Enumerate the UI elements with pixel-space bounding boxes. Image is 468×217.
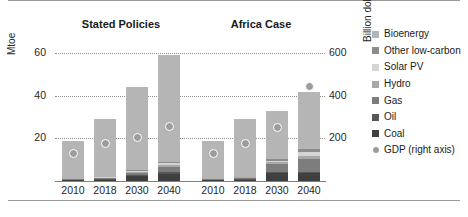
gdp-marker: [241, 139, 250, 148]
legend-label: Bioenergy: [384, 29, 429, 39]
gdp-marker: [273, 123, 282, 132]
bar-africa-case-2018: [234, 119, 256, 181]
gdp-marker: [101, 139, 110, 148]
x-label-2040: 2040: [149, 184, 189, 196]
bar-stack: [94, 36, 116, 181]
bar-stated-policies-2018: [94, 119, 116, 181]
legend-label: Coal: [384, 129, 405, 139]
gdp-marker: [305, 82, 314, 91]
gdp-marker: [133, 133, 142, 142]
bar-africa-case-2010: [202, 141, 224, 181]
legend-swatch-icon: [372, 114, 379, 121]
legend-label: GDP (right axis): [384, 145, 455, 155]
gdp-marker: [209, 149, 218, 158]
bar-stack: [234, 36, 256, 181]
bar-segment-gas: [298, 159, 320, 172]
y-tick-right-400: 400: [329, 89, 355, 101]
legend-label: Gas: [384, 96, 402, 106]
legend-label: Hydro: [384, 79, 411, 89]
bar-africa-case-2040: [298, 92, 320, 181]
bar-segment-coal: [234, 180, 256, 181]
bar-stated-policies-2040: [158, 55, 180, 181]
bar-stack: [266, 36, 288, 181]
gdp-marker: [69, 149, 78, 158]
bar-segment-bioenergy: [62, 141, 84, 179]
legend-item-coal[interactable]: Coal: [372, 126, 467, 143]
bar-segment-coal: [298, 173, 320, 181]
y-axis-left-label: Mtoe: [6, 33, 17, 55]
bar-segment-gas: [266, 164, 288, 173]
bar-segment-bioenergy: [202, 141, 224, 179]
legend-item-hydro[interactable]: Hydro: [372, 76, 467, 93]
bar-stack: [298, 36, 320, 181]
legend-item-solar-pv[interactable]: Solar PV: [372, 59, 467, 76]
y-tick-left-60: 60: [24, 46, 46, 58]
bar-segment-bioenergy: [266, 111, 288, 160]
bar-segment-coal: [158, 174, 180, 181]
legend-swatch-icon: [372, 81, 379, 88]
x-label-2040: 2040: [289, 184, 329, 196]
bar-stack: [158, 36, 180, 181]
legend-swatch-icon: [372, 97, 379, 104]
legend-swatch-icon: [372, 47, 379, 54]
bar-africa-case-2030: [266, 111, 288, 181]
legend-dot-icon: [373, 147, 379, 153]
group-title-1: Africa Case: [192, 18, 330, 30]
bar-stated-policies-2010: [62, 141, 84, 181]
legend-swatch-icon: [372, 64, 379, 71]
y-tick-left-20: 20: [24, 131, 46, 143]
bar-stack: [126, 36, 148, 181]
legend-item-gdp-right-axis-[interactable]: GDP (right axis): [372, 142, 467, 159]
legend-item-gas[interactable]: Gas: [372, 92, 467, 109]
bar-segment-coal: [266, 173, 288, 181]
legend-item-bioenergy[interactable]: Bioenergy: [372, 26, 467, 43]
y-tick-right-600: 600: [329, 46, 355, 58]
gdp-marker: [165, 122, 174, 131]
legend-label: Other low-carbon: [384, 46, 461, 56]
legend-item-other-low-carbon[interactable]: Other low-carbon: [372, 43, 467, 60]
bar-segment-coal: [62, 180, 84, 181]
legend-swatch-icon: [372, 31, 379, 38]
x-axis-line: [55, 181, 326, 182]
legend-item-oil[interactable]: Oil: [372, 109, 467, 126]
chart-legend: BioenergyOther low-carbonSolar PVHydroGa…: [372, 26, 467, 159]
bar-segment-coal: [126, 176, 148, 181]
legend-label: Oil: [384, 112, 396, 122]
bar-stack: [202, 36, 224, 181]
y-tick-left-40: 40: [24, 89, 46, 101]
bar-stack: [62, 36, 84, 181]
bar-segment-coal: [202, 180, 224, 181]
bar-segment-bioenergy: [298, 92, 320, 150]
legend-label: Solar PV: [384, 62, 423, 72]
bar-segment-bioenergy: [158, 55, 180, 162]
legend-swatch-icon: [372, 130, 379, 137]
y-tick-right-200: 200: [329, 131, 355, 143]
bar-segment-bioenergy: [126, 87, 148, 170]
group-title-0: Stated Policies: [52, 18, 190, 30]
bar-segment-coal: [94, 180, 116, 181]
